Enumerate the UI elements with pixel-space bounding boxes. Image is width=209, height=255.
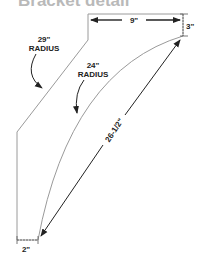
label-24in-value: 24"	[87, 61, 100, 70]
label-26-5in: 26-1/2"	[103, 117, 125, 144]
label-3in: 3"	[186, 22, 194, 31]
label-29in-value: 29"	[38, 35, 51, 44]
label-2in: 2"	[22, 245, 30, 254]
label-9in: 9"	[130, 16, 138, 25]
outer-radius-arrow-icon	[31, 54, 42, 88]
label-29in-word: RADIUS	[29, 44, 60, 53]
bracket-diagram: 9" 3" 29" RADIUS 24" RADIUS 26-1/2" 2"	[0, 0, 209, 255]
label-24in-word: RADIUS	[78, 70, 109, 79]
inner-radius-arrow-icon	[76, 80, 84, 113]
